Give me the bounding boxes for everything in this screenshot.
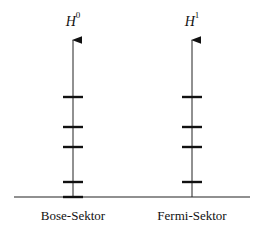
sector-label-bose: Bose-Sektor	[41, 208, 105, 224]
operator-label-fermi: H1	[185, 12, 200, 30]
spectrum-diagram	[0, 0, 267, 234]
sector-label-fermi: Fermi-Sektor	[157, 208, 226, 224]
operator-label-bose: H0	[66, 12, 81, 30]
